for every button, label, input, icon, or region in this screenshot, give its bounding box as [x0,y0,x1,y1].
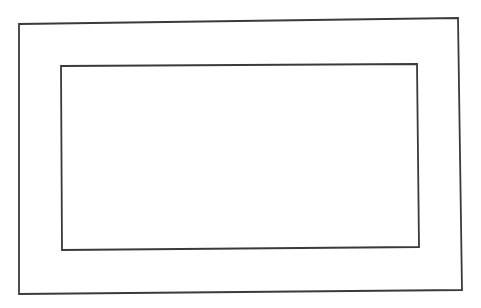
drawing-canvas [0,0,481,308]
canvas-background [0,0,481,308]
nested-rectangles-diagram [0,0,481,308]
